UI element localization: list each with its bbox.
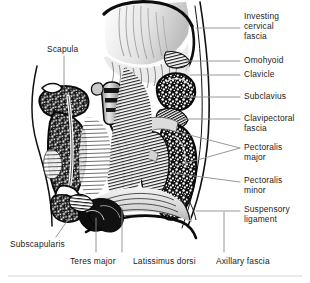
label-omohyoid: Omohyoid <box>244 55 284 65</box>
label-investing-cervical-fascia: Investing cervical fascia <box>244 11 279 42</box>
label-axillary-fascia: Axillary fascia <box>216 256 270 266</box>
label-subclavius: Subclavius <box>244 91 286 101</box>
label-subscapularis: Subscapularis <box>10 239 65 249</box>
label-scapula: Scapula <box>47 44 78 54</box>
label-clavicle: Clavicle <box>244 69 275 79</box>
label-clavipectoral-fascia: Clavipectoral fascia <box>244 113 295 133</box>
label-teres-major: Teres major <box>70 256 116 266</box>
label-pectoralis-minor: Pectoralis minor <box>244 175 282 195</box>
anatomy-figure-page: Investing cervical fasciaOmohyoidClavicl… <box>0 0 310 283</box>
label-suspensory-ligament: Suspensory ligament <box>244 204 290 224</box>
label-pectoralis-major: Pectoralis major <box>244 142 282 162</box>
label-latissimus-dorsi: Latissimus dorsi <box>133 256 196 266</box>
clavicle-cross-section <box>157 73 195 110</box>
